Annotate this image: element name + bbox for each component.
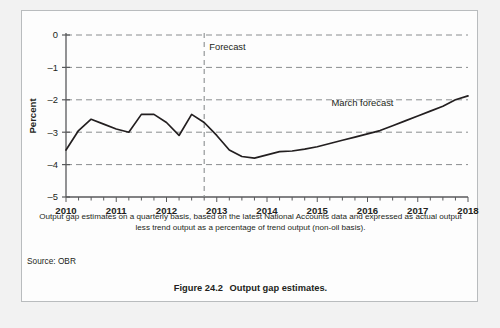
forecast-divider-label: Forecast [209, 41, 246, 52]
output-gap-line-chart: 0–1–2–3–4–5 2010201120122013201420152016… [22, 11, 479, 216]
y-tick-label: –1 [48, 62, 58, 73]
chart-annotations-group: ForecastMarch forecast [209, 41, 394, 109]
chart-note: Output gap estimates on a quarterly basi… [22, 211, 479, 233]
chart-plot-area: 0–1–2–3–4–5 2010201120122013201420152016… [22, 11, 479, 216]
y-axis-title: Percent [27, 98, 38, 134]
series-line [66, 96, 468, 158]
y-tick-label: 0 [53, 29, 58, 40]
y-tick-label: –2 [48, 94, 58, 105]
figure-panel: 0–1–2–3–4–5 2010201120122013201420152016… [21, 10, 478, 302]
axes-group [66, 33, 468, 197]
y-tick-label: –3 [48, 127, 58, 138]
y-axis-title-text: Percent [27, 98, 38, 134]
x-axis-ticks-group [62, 35, 468, 202]
y-axis-tick-labels: 0–1–2–3–4–5 [48, 29, 58, 202]
series-line-group [66, 96, 468, 158]
figure-caption: Figure 24.2 Output gap estimates. [22, 283, 479, 293]
figure-title: Output gap estimates. [230, 283, 328, 293]
figure-number: Figure 24.2 [174, 283, 223, 293]
source-attribution: Source: OBR [22, 256, 479, 266]
y-tick-label: –4 [48, 159, 58, 170]
march-forecast-label: March forecast [331, 97, 393, 108]
gridlines-group [66, 35, 468, 165]
y-tick-label: –5 [48, 191, 58, 202]
